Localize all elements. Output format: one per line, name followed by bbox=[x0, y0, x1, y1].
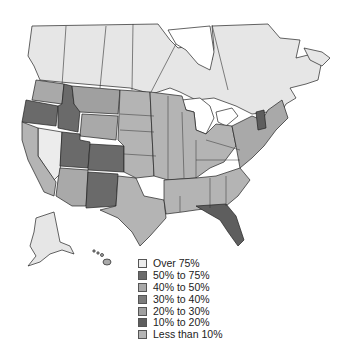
legend-swatch bbox=[138, 307, 147, 316]
legend-label: 10% to 20% bbox=[153, 317, 210, 328]
legend-swatch bbox=[138, 271, 147, 280]
state-wyoming bbox=[80, 114, 118, 140]
legend-item: 50% to 75% bbox=[138, 270, 222, 282]
legend-item: 30% to 40% bbox=[138, 293, 222, 305]
state-alaska bbox=[28, 212, 74, 266]
legend-label: Less than 10% bbox=[153, 329, 222, 340]
legend-item: 40% to 50% bbox=[138, 282, 222, 294]
state-montana bbox=[72, 86, 120, 114]
legend-swatch bbox=[138, 259, 147, 268]
legend-item: 10% to 20% bbox=[138, 317, 222, 329]
legend-swatch bbox=[138, 318, 147, 327]
legend-label: Over 75% bbox=[153, 258, 200, 269]
legend-label: 50% to 75% bbox=[153, 270, 210, 281]
legend-swatch bbox=[138, 295, 147, 304]
state-new-mexico bbox=[86, 172, 118, 208]
state-new-hampshire bbox=[256, 110, 266, 130]
legend-item: Over 75% bbox=[138, 258, 222, 270]
legend-swatch bbox=[138, 283, 147, 292]
state-utah bbox=[60, 132, 90, 168]
state-colorado bbox=[88, 144, 124, 172]
map-legend: Over 75% 50% to 75% 40% to 50% 30% to 40… bbox=[138, 258, 222, 341]
legend-label: 30% to 40% bbox=[153, 294, 210, 305]
state-oregon bbox=[22, 100, 58, 126]
state-florida bbox=[196, 204, 244, 246]
legend-swatch bbox=[138, 330, 147, 339]
state-washington bbox=[32, 80, 64, 104]
legend-label: 40% to 50% bbox=[153, 282, 210, 293]
state-hawaii bbox=[93, 250, 111, 265]
state-arizona bbox=[56, 168, 88, 206]
legend-item: Less than 10% bbox=[138, 329, 222, 341]
legend-item: 20% to 30% bbox=[138, 305, 222, 317]
legend-label: 20% to 30% bbox=[153, 306, 210, 317]
